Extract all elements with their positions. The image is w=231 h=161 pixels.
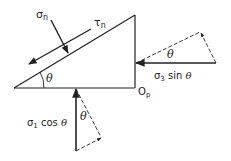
origin-label: Op [138, 86, 151, 99]
apex-angle-arc [40, 72, 44, 88]
component-dashed-bottom [76, 138, 101, 151]
component-dashed-right [201, 33, 216, 63]
sigma1-cos-label: σ1 cos θ [27, 117, 67, 130]
hypotenuse [14, 15, 135, 88]
tau-n-label: τn [94, 16, 106, 30]
stress-element-diagram: θ σn τn θ σ3 sin θ Op θ σ1 cos θ [0, 0, 231, 161]
sigma-n-label: σn [36, 8, 48, 22]
triangle-element [14, 15, 135, 88]
theta-apex-label: θ [46, 72, 53, 85]
theta-right-label: θ [167, 48, 174, 61]
theta-bottom-label: θ [80, 110, 87, 123]
sigma-n-arrow [51, 20, 68, 53]
sigma3-sin-label: σ3 sin θ [154, 70, 192, 83]
